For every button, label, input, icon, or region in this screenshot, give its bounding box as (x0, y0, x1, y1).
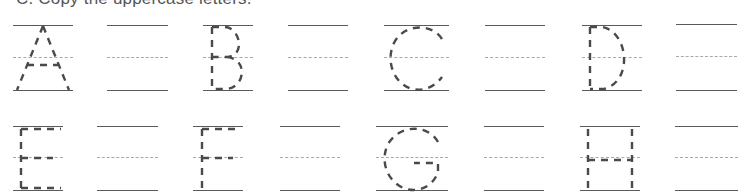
bottom-line (280, 190, 340, 191)
top-line (675, 126, 738, 127)
writing-cell-3[interactable] (485, 25, 545, 91)
mid-guide-line (288, 57, 348, 58)
mid-guide-line (675, 157, 738, 158)
top-line (484, 126, 544, 127)
writing-cell-2[interactable] (288, 25, 348, 91)
top-line (280, 126, 340, 127)
letter-f-trace-icon (193, 126, 243, 191)
top-line (676, 24, 737, 25)
trace-cell-G (376, 126, 448, 191)
top-line (485, 25, 545, 26)
bottom-line (107, 90, 168, 91)
letter-c-trace-icon (384, 25, 449, 91)
bottom-line (484, 190, 544, 191)
mid-guide-line (485, 57, 545, 58)
trace-cell-H (580, 126, 640, 191)
writing-cell-5[interactable] (97, 126, 158, 191)
bottom-line (97, 190, 158, 191)
letter-h-trace-icon (580, 126, 640, 191)
writing-cell-4[interactable] (676, 24, 737, 91)
letter-d-trace-icon (582, 25, 642, 91)
trace-cell-F (193, 126, 243, 191)
letter-e-trace-icon (13, 126, 63, 191)
letter-b-trace-icon (203, 25, 253, 91)
mid-guide-line (97, 157, 158, 158)
trace-cell-D (582, 25, 642, 91)
bottom-line (676, 90, 737, 91)
instruction-heading: C. Copy the uppercase letters. (16, 0, 252, 9)
top-line (107, 25, 168, 26)
mid-guide-line (676, 56, 737, 57)
trace-cell-C (384, 25, 449, 91)
top-line (288, 25, 348, 26)
writing-cell-6[interactable] (280, 126, 340, 191)
trace-cell-A (13, 25, 73, 91)
letter-a-trace-icon (13, 25, 73, 91)
top-line (97, 126, 158, 127)
writing-cell-8[interactable] (675, 126, 738, 191)
trace-cell-B (203, 25, 253, 91)
mid-guide-line (280, 157, 340, 158)
letter-g-trace-icon (376, 126, 448, 191)
bottom-line (675, 190, 738, 191)
mid-guide-line (484, 157, 544, 158)
writing-cell-1[interactable] (107, 25, 168, 91)
writing-cell-7[interactable] (484, 126, 544, 191)
trace-cell-E (13, 126, 63, 191)
bottom-line (485, 90, 545, 91)
mid-guide-line (107, 57, 168, 58)
bottom-line (288, 90, 348, 91)
